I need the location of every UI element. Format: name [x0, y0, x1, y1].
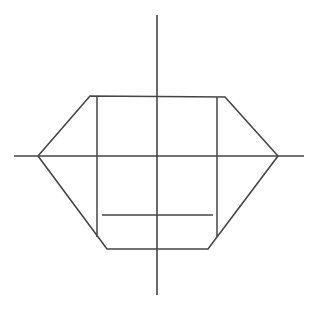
- figure-background: [0, 0, 317, 309]
- figure-canvas: [0, 0, 317, 309]
- geometry-figure: [0, 0, 317, 309]
